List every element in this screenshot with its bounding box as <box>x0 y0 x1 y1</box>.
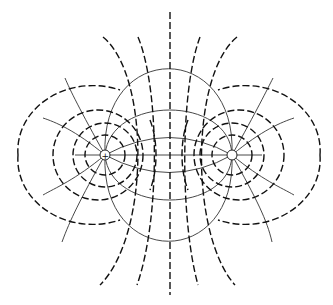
dipole-diagram: + <box>0 0 333 305</box>
positive-charge: + <box>100 150 110 161</box>
equipotential-lines <box>18 12 320 295</box>
field-lines <box>43 69 294 242</box>
negative-charge <box>227 150 237 160</box>
svg-text:+: + <box>102 151 110 161</box>
